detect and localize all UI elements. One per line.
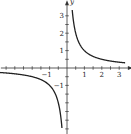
axes — [1, 0, 131, 134]
curves — [0, 10, 125, 128]
chart: −1123321−1xy — [0, 0, 131, 134]
y-tick-label: 2 — [60, 30, 64, 38]
y-tick-label: −1 — [54, 82, 64, 90]
y-tick-label: 3 — [60, 12, 64, 20]
y-tick-label: 1 — [60, 47, 64, 55]
left-branch-curve — [0, 73, 62, 128]
y-axis-label: y — [69, 0, 75, 6]
x-axis-arrow-icon — [128, 66, 131, 70]
labels: −1123321−1xy — [41, 0, 131, 90]
y-axis-arrow-icon — [65, 0, 69, 5]
x-tick-label: 2 — [100, 71, 104, 79]
x-tick-label: 3 — [117, 71, 121, 79]
x-tick-label: 1 — [82, 71, 86, 79]
right-branch-curve — [72, 10, 125, 63]
x-tick-label: −1 — [41, 71, 51, 79]
